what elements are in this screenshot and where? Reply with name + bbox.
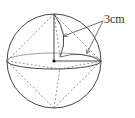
center-point [52, 59, 55, 62]
label-arrow-2 [87, 21, 103, 53]
label-arrow-1 [64, 21, 103, 36]
surface-arc [60, 54, 101, 61]
radius-label: 3cm [104, 13, 125, 25]
